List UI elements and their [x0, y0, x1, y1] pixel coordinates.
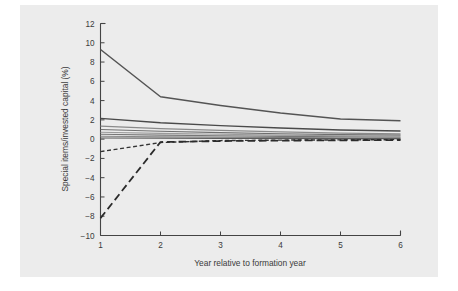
series-line-series-2 — [101, 118, 401, 131]
x-axis-title: Year relative to formation year — [194, 258, 306, 268]
x-tick-label: 6 — [398, 241, 403, 250]
series-line-series-10-dashed-long — [101, 140, 401, 218]
y-tick-label: −2 — [85, 154, 95, 163]
y-tick-label: 8 — [90, 58, 95, 67]
figure-container: −10−8−6−4−2024681012 123456 Year relativ… — [0, 0, 458, 291]
y-tick-label: 2 — [90, 116, 95, 125]
series-line-series-1 — [101, 50, 401, 121]
y-tick-label: 10 — [85, 39, 95, 48]
y-tick-label: 0 — [90, 135, 95, 144]
x-tick-label: 5 — [338, 241, 343, 250]
y-tick-label: −8 — [85, 212, 95, 221]
y-tick-label: −6 — [85, 193, 95, 202]
axes-frame — [101, 24, 401, 236]
x-tick-label: 1 — [98, 241, 103, 250]
x-tick-label: 3 — [218, 241, 223, 250]
y-tick-label: −10 — [81, 232, 95, 241]
y-tick-label: 4 — [90, 97, 95, 106]
x-tick-label: 2 — [158, 241, 163, 250]
data-series-group — [101, 50, 401, 219]
x-tick-label: 4 — [278, 241, 283, 250]
x-axis-ticks: 123456 — [98, 232, 403, 250]
y-axis-title: Special items/invested capital (%) — [60, 66, 70, 191]
series-line-series-8 — [101, 138, 401, 139]
chart-canvas: −10−8−6−4−2024681012 123456 Year relativ… — [0, 0, 458, 291]
y-tick-label: 12 — [85, 20, 95, 29]
y-tick-label: −4 — [85, 174, 95, 183]
y-tick-label: 6 — [90, 77, 95, 86]
